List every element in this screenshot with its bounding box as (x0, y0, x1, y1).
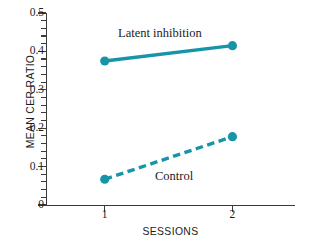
data-point-marker (228, 41, 237, 50)
series-line (105, 46, 233, 61)
data-point-marker (100, 56, 109, 65)
series-label-latent-inhibition: Latent inhibition (118, 26, 202, 41)
chart-figure: 00.10.20.30.40.5 12 MEAN CER RATIO SESSI… (0, 0, 310, 248)
series-label-control: Control (155, 169, 193, 184)
series-latent-inhibition (100, 41, 237, 66)
data-point-marker (228, 132, 237, 141)
data-point-marker (100, 175, 109, 184)
